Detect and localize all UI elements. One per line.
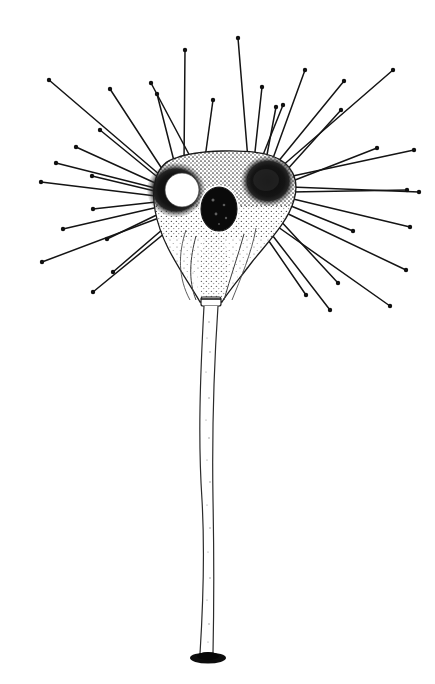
- axopodium-tip-knob: [40, 260, 44, 264]
- axopodium-tip-knob: [74, 145, 78, 149]
- axopodium-tip-knob: [339, 108, 343, 112]
- axopodium-tip-knob: [91, 290, 95, 294]
- axopodium-tip-knob: [54, 161, 58, 165]
- axopodium-tip-knob: [274, 105, 278, 109]
- axopodium-tip-knob: [342, 79, 346, 83]
- figure-root: [0, 0, 435, 684]
- axopodium-tip-knob: [281, 103, 285, 107]
- axopodium-tip-knob: [90, 174, 94, 178]
- stalk-neck-collar: [201, 297, 221, 306]
- axopodium-tip-knob: [388, 304, 392, 308]
- axopodium-tip-knob: [408, 225, 412, 229]
- axopodium-tip-knob: [412, 148, 416, 152]
- axopodium-tip-knob: [211, 98, 215, 102]
- axopodium-tip-knob: [375, 146, 379, 150]
- axopodium-tip-knob: [391, 68, 395, 72]
- axopodium-tip-knob: [236, 36, 240, 40]
- axopodium-tip-knob: [98, 128, 102, 132]
- axopodium-tip-knob: [303, 68, 307, 72]
- axopodium-tip-knob: [405, 188, 409, 192]
- axopodium-tip-knob: [351, 229, 355, 233]
- axopodium-tip-knob: [183, 48, 187, 52]
- axopodium-tip-knob: [336, 281, 340, 285]
- axopodium-tip-knob: [260, 85, 264, 89]
- axopodium-tip-knob: [149, 81, 153, 85]
- axopodium-tip-knob: [328, 308, 332, 312]
- axopodium-tip-knob: [61, 227, 65, 231]
- axopodium-tip-knob: [108, 87, 112, 91]
- right-lobe-hub: [241, 156, 295, 206]
- nucleus: [199, 185, 239, 233]
- canvas-background: [0, 0, 435, 684]
- protozoan-illustration: [0, 0, 435, 684]
- axopodium-tip-knob: [91, 207, 95, 211]
- axopodium-tip-knob: [47, 78, 51, 82]
- axopodium-tip-knob: [404, 268, 408, 272]
- axopodium-tip-knob: [304, 293, 308, 297]
- axopodium-tip-knob: [417, 190, 421, 194]
- contractile-vacuole: [165, 173, 199, 207]
- axopodium-tip-knob: [39, 180, 43, 184]
